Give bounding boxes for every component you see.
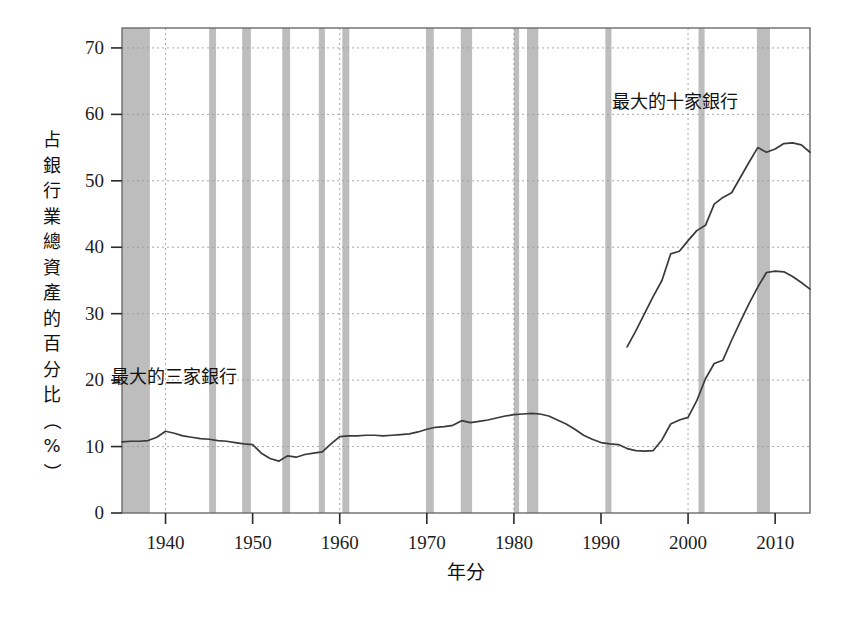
y-axis-title-char: 行	[43, 180, 61, 201]
three-largest-banks-label: 最大的三家銀行	[111, 366, 237, 387]
recession-band	[605, 28, 611, 513]
y-axis-title-char: 分	[43, 359, 61, 380]
x-tick-label: 1970	[408, 532, 446, 553]
y-axis-title-char: 總	[43, 231, 61, 252]
y-tick-label: 60	[85, 103, 104, 124]
recession-band	[342, 28, 349, 513]
ten-largest-banks-label: 最大的十家銀行	[612, 91, 738, 112]
recession-band	[527, 28, 538, 513]
recession-band	[757, 28, 770, 513]
chart-figure: 010203040506070 194019501960197019801990…	[0, 0, 846, 623]
y-axis-title-char: （	[42, 412, 63, 430]
y-axis-title-char: 百	[43, 333, 61, 354]
recession-band	[242, 28, 251, 513]
x-tick-label: 1940	[147, 532, 185, 553]
y-axis-title-char: %	[43, 435, 60, 456]
y-axis-title-char: 比	[43, 384, 61, 405]
x-tick-label: 1950	[234, 532, 272, 553]
y-tick-label: 50	[85, 170, 104, 191]
recession-band	[461, 28, 472, 513]
x-tick-label: 1990	[582, 532, 620, 553]
y-axis-title-char: 的	[43, 308, 61, 329]
y-tick-label: 0	[95, 502, 105, 523]
x-tick-label: 1980	[495, 532, 533, 553]
x-tick-label: 2010	[756, 532, 794, 553]
recession-band	[282, 28, 290, 513]
x-axis-title: 年分	[447, 561, 485, 583]
y-tick-label: 30	[85, 303, 104, 324]
y-axis-title-char: 產	[43, 282, 61, 303]
y-tick-label: 20	[85, 369, 104, 390]
y-tick-label: 40	[85, 236, 104, 257]
y-axis-title-char: 銀	[43, 155, 61, 176]
y-tick-label: 10	[85, 436, 104, 457]
recession-band	[319, 28, 325, 513]
y-axis-title-char: 占	[43, 129, 61, 150]
y-axis-title-char: ）	[42, 463, 63, 481]
recession-band	[514, 28, 519, 513]
y-tick-label: 70	[85, 37, 104, 58]
recession-band	[426, 28, 434, 513]
y-axis-title-char: 業	[43, 206, 61, 227]
y-axis-title-char: 資	[43, 257, 61, 278]
x-tick-label: 1960	[321, 532, 359, 553]
bank-concentration-chart: 010203040506070 194019501960197019801990…	[0, 0, 846, 623]
x-tick-label: 2000	[669, 532, 707, 553]
